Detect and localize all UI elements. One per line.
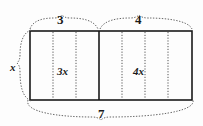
top-left-brace <box>30 15 98 29</box>
bottom-brace <box>28 100 193 120</box>
left-height-brace <box>17 30 31 101</box>
top-right-width-label: 4 <box>135 13 142 26</box>
area-model-diagram: 3 4 7 x 3x 4x <box>0 0 203 126</box>
right-area-label: 4x <box>133 66 144 77</box>
top-right-brace <box>100 15 192 29</box>
bottom-total-width-label: 7 <box>98 107 105 120</box>
left-area-label: 3x <box>57 66 68 77</box>
left-height-label: x <box>10 62 16 73</box>
right-rectangle-unit-lines <box>122 32 168 99</box>
top-left-width-label: 3 <box>57 13 64 26</box>
